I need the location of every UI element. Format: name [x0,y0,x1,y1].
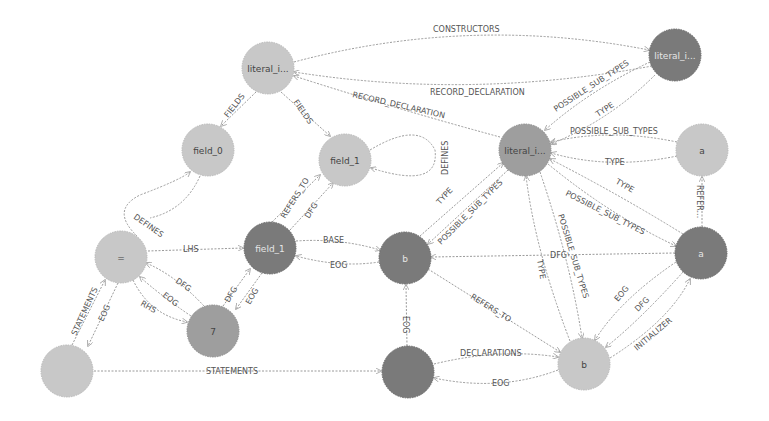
node-b-mid[interactable]: b [379,232,431,284]
svg-text:EOG: EOG [401,316,410,334]
edge-refers-to-a[interactable]: REFER... [695,177,704,227]
edge-possible-sub-types-a[interactable]: POSSIBLE_SUB_TYPES [551,127,677,142]
svg-text:LHS: LHS [183,245,199,254]
svg-text:literal_i...: literal_i... [247,64,288,74]
edge-constructors[interactable]: CONSTRUCTORS [294,25,649,62]
node-a-right[interactable]: a [675,227,727,279]
edge-type-a[interactable]: TYPE [551,153,677,167]
svg-text:=: = [117,253,125,263]
svg-text:INITIALIZER: INITIALIZER [633,316,675,353]
svg-text:DFG: DFG [174,276,193,293]
node-assign[interactable]: = [95,231,147,283]
svg-text:a: a [699,146,705,156]
svg-text:b: b [402,254,408,264]
svg-text:STATEMENTS: STATEMENTS [70,286,100,337]
edge-dfg-a-b[interactable]: DFG [431,251,675,260]
edge-defines-loop[interactable]: DEFINES [370,135,450,176]
svg-text:7: 7 [210,327,216,337]
node-root[interactable] [41,345,93,397]
edge-eog-b-field1[interactable]: EOG [296,256,379,270]
edges: CONSTRUCTORS RECORD_DECLARATION RECORD_D… [70,25,704,388]
svg-text:DFG: DFG [550,251,567,260]
svg-text:CONSTRUCTORS: CONSTRUCTORS [433,25,500,34]
svg-text:field_1: field_1 [255,244,285,254]
svg-text:TYPE: TYPE [434,186,455,207]
edge-statements-root-decl[interactable]: STATEMENTS [94,367,381,376]
svg-text:DFG: DFG [633,295,651,313]
graph-canvas[interactable]: CONSTRUCTORS RECORD_DECLARATION RECORD_D… [0,0,769,421]
node-field-0[interactable]: field_0 [182,124,234,176]
svg-text:DFG: DFG [303,201,320,220]
svg-text:EOG: EOG [330,261,348,270]
edge-lhs[interactable]: LHS [148,245,243,254]
svg-text:RHS: RHS [139,299,158,315]
svg-text:EOG: EOG [492,379,510,388]
svg-text:POSSIBLE_SUB_TYPES: POSSIBLE_SUB_TYPES [552,58,631,113]
svg-text:literal_i...: literal_i... [654,51,695,61]
svg-text:FIELDS: FIELDS [222,92,246,119]
edge-defines-assign[interactable]: DEFINES [124,172,200,239]
svg-text:REFERS_TO: REFERS_TO [469,292,513,324]
node-declaration[interactable] [382,346,434,398]
svg-text:a: a [698,249,704,259]
edge-refers-to-b[interactable]: REFERS_TO [428,269,560,352]
svg-text:EOG: EOG [97,303,113,323]
node-a-top[interactable]: a [676,124,728,176]
edge-fields-field0[interactable]: FIELDS [221,92,256,126]
svg-text:POSSIBLE_SUB_TYPES: POSSIBLE_SUB_TYPES [564,189,646,237]
svg-text:EOG: EOG [161,290,180,308]
svg-text:EOG: EOG [244,286,261,306]
svg-text:POSSIBLE_SUB_TYPES: POSSIBLE_SUB_TYPES [570,127,658,136]
svg-text:b: b [581,360,587,370]
svg-text:TYPE: TYPE [613,176,635,194]
svg-text:REFER...: REFER... [695,185,704,218]
edge-record-declaration-2[interactable]: RECORD_DECLARATION [294,76,500,137]
nodes: literal_i... literal_i... literal_i... f… [41,29,728,398]
svg-text:TYPE: TYPE [535,258,547,280]
svg-text:FIELDS: FIELDS [291,98,314,126]
node-field-1-top[interactable]: field_1 [319,134,371,186]
edge-fields-field1[interactable]: FIELDS [281,92,330,136]
svg-text:TYPE: TYPE [604,158,625,167]
svg-text:TYPE: TYPE [593,100,615,119]
edge-declarations[interactable]: DECLARATIONS [434,349,558,364]
svg-text:BASE: BASE [323,236,344,245]
svg-text:literal_i...: literal_i... [504,146,545,156]
edge-possible-sub-types-b[interactable]: POSSIBLE_SUB_TYPES [428,170,508,246]
node-seven[interactable]: 7 [187,305,239,357]
node-literal-top-left[interactable]: literal_i... [242,42,294,94]
svg-text:field_1: field_1 [330,156,360,166]
edge-eog-field1-seven[interactable]: EOG [236,273,262,309]
node-literal-center[interactable]: literal_i... [499,124,551,176]
edge-base[interactable]: BASE [296,236,380,250]
edge-eog-bbottom-decl[interactable]: EOG [434,370,558,388]
node-b-bottom[interactable]: b [558,338,610,390]
svg-text:DECLARATIONS: DECLARATIONS [460,349,522,358]
svg-text:field_0: field_0 [193,146,223,156]
node-field-1-mid[interactable]: field_1 [244,222,296,274]
svg-text:DEFINES: DEFINES [441,141,450,175]
svg-text:STATEMENTS: STATEMENTS [206,367,258,376]
svg-text:RECORD_DECLARATION: RECORD_DECLARATION [430,88,525,97]
node-literal-top-right[interactable]: literal_i... [649,29,701,81]
edge-eog-decl-b[interactable]: EOG [401,285,410,346]
